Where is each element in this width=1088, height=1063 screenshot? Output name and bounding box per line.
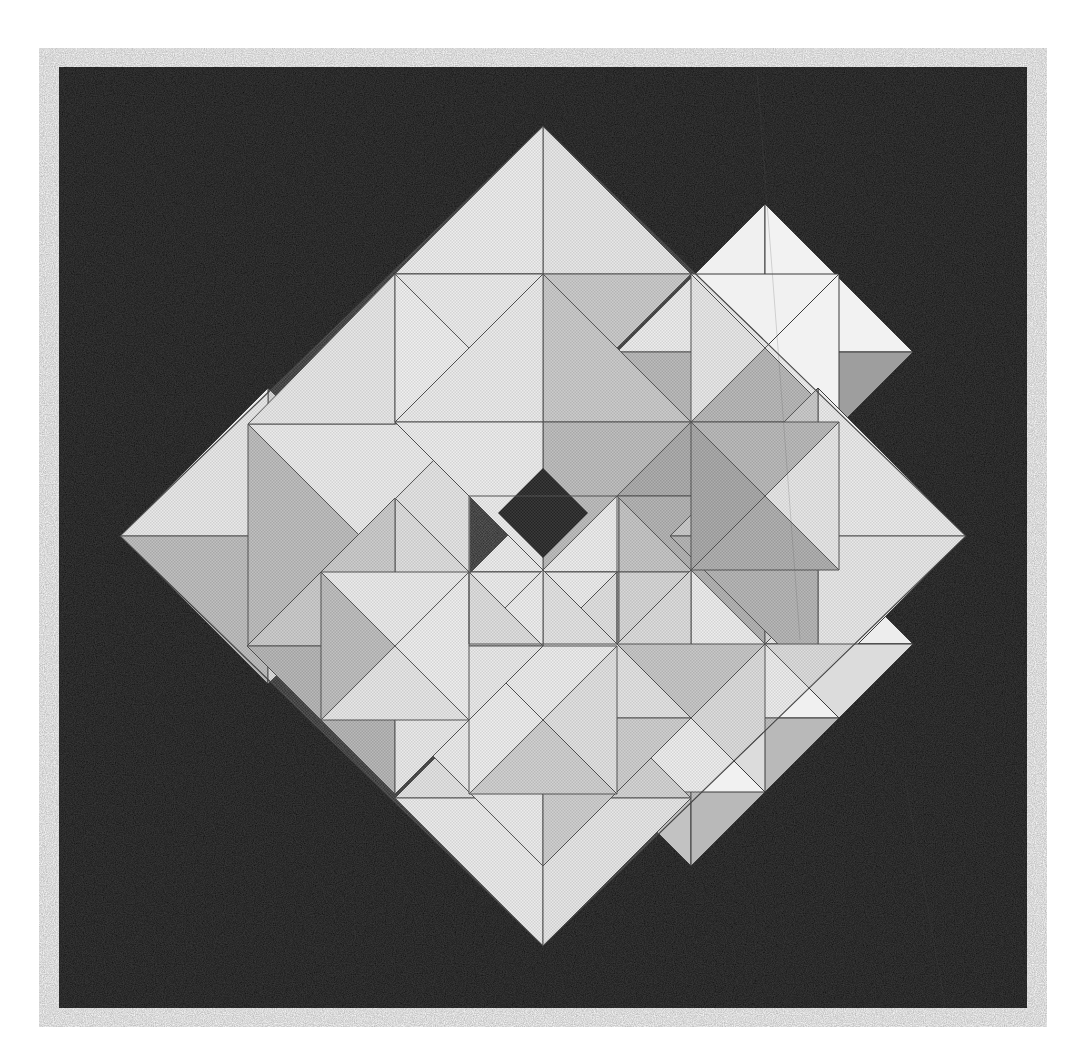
geometric-artwork <box>0 0 1088 1063</box>
artwork-canvas <box>0 0 1088 1063</box>
